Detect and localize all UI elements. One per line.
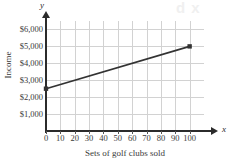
y-axis-title: Income [3,35,13,95]
x-axis-title: Sets of golf clubs sold [46,148,204,158]
income-line-chart: d x y x $1,000$2,000$3,000$4,000$5,000$6… [0,0,238,166]
data-series-line [0,0,238,166]
series-line [46,46,190,88]
data-point-marker [187,44,191,48]
data-point-marker [44,86,48,90]
